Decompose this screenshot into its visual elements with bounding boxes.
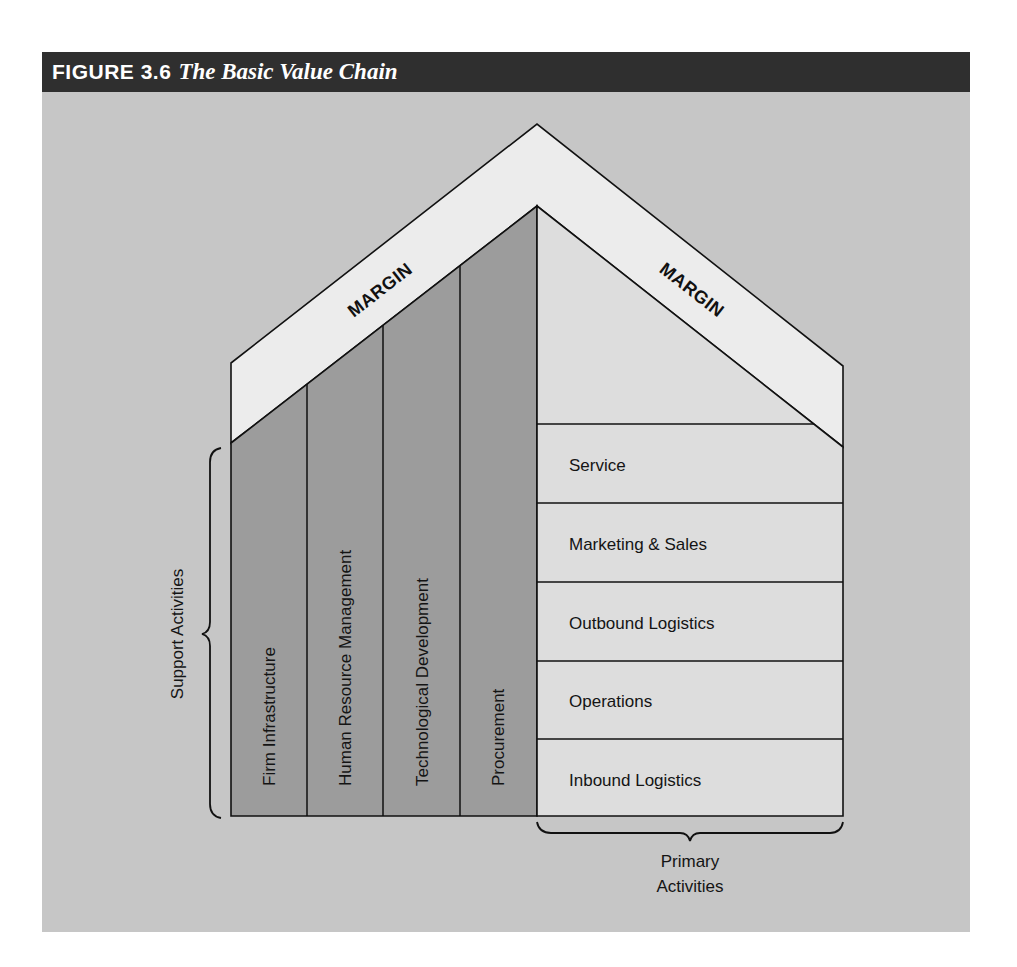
primary-activity-label: Service — [569, 456, 626, 475]
support-activity-label: Technological Development — [413, 578, 432, 786]
support-activity-label: Human Resource Management — [336, 549, 355, 786]
support-activities-label: Support Activities — [168, 569, 187, 699]
primary-activities-label-line2: Activities — [656, 877, 723, 896]
primary-activity-label: Marketing & Sales — [569, 535, 707, 554]
primary-brace-icon — [537, 822, 843, 841]
primary-activity-label: Outbound Logistics — [569, 614, 715, 633]
support-activity-label: Firm Infrastructure — [260, 647, 279, 786]
primary-activity-label: Operations — [569, 692, 652, 711]
support-brace-icon — [202, 448, 221, 818]
support-activity-label: Procurement — [489, 688, 508, 786]
value-chain-diagram: MARGIN MARGIN Firm Infrastructure Human … — [0, 0, 1017, 967]
primary-activity-label: Inbound Logistics — [569, 771, 701, 790]
primary-activities-label-line1: Primary — [661, 852, 720, 871]
